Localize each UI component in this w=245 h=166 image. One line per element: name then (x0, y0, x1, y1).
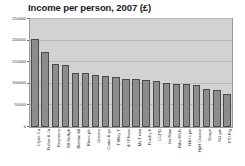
x-axis-tick: SB Hulkyk (59, 129, 69, 166)
x-axis-tick: PTI Ptg (221, 129, 231, 166)
x-axis-tick: Greens (90, 129, 100, 166)
bar (52, 64, 59, 127)
x-axis-tick: Ribs H'Lfs (170, 129, 180, 166)
x-axis-tick: CCPD (150, 129, 160, 166)
bar (153, 81, 160, 127)
x-axis-tick: Bieldon Ml (69, 129, 79, 166)
bar (62, 65, 69, 127)
x-axis-tick: SG pin (211, 129, 221, 166)
bar (223, 94, 230, 127)
bar (41, 52, 48, 127)
bar (203, 89, 210, 127)
bar (132, 79, 139, 127)
x-axis-tick: Keynerns (49, 129, 59, 166)
x-axis-tick: T Wley T (110, 129, 120, 166)
bar (82, 73, 89, 127)
x-axis-tick: Nikt's pis (181, 129, 191, 166)
x-axis-tick: HpH Ocrose (191, 129, 201, 166)
bar (102, 76, 109, 127)
x-axis-tick: Cams & gs (100, 129, 110, 166)
x-axis-tick: Fisher & Jo (39, 129, 49, 166)
bar (183, 84, 190, 127)
bar (31, 39, 38, 127)
bar (193, 85, 200, 127)
x-axis: Clyde CoFisher & JoKeynernsSB HulkykBiel… (29, 129, 233, 166)
y-axis-tick-label: 50000 (15, 101, 26, 108)
bars-layer (30, 19, 232, 127)
x-axis-tick-label: PTI Ptg (227, 129, 232, 143)
x-axis-tick: Rines plc (80, 129, 90, 166)
plot-area (29, 18, 233, 128)
bar (92, 75, 99, 127)
bar (173, 84, 180, 127)
bar (163, 83, 170, 127)
y-axis-tick-label: 0 (24, 123, 26, 130)
y-axis-tick-label: 100000 (12, 79, 26, 86)
x-axis-tick: My T tom (130, 129, 140, 166)
x-axis-tick: Go Now (160, 129, 170, 166)
bar (142, 80, 149, 127)
bar (72, 73, 79, 127)
x-axis-tick: A I Phoas (120, 129, 130, 166)
x-axis-tick: Drage (201, 129, 211, 166)
x-axis-tick: Clyde Co (29, 129, 39, 166)
bar (122, 79, 129, 127)
y-axis-tick-label: 200000 (12, 36, 26, 43)
bar (213, 90, 220, 127)
y-axis: 050000100000150000200000250000 (0, 18, 29, 128)
bar-chart: Income per person, 2007 (£) 050000100000… (0, 0, 245, 166)
y-axis-tick-label: 250000 (12, 15, 26, 22)
chart-title: Income per person, 2007 (£) (28, 1, 218, 14)
x-axis-tick: Frachy h (140, 129, 150, 166)
bar (112, 77, 119, 127)
y-axis-tick-label: 150000 (12, 58, 26, 65)
